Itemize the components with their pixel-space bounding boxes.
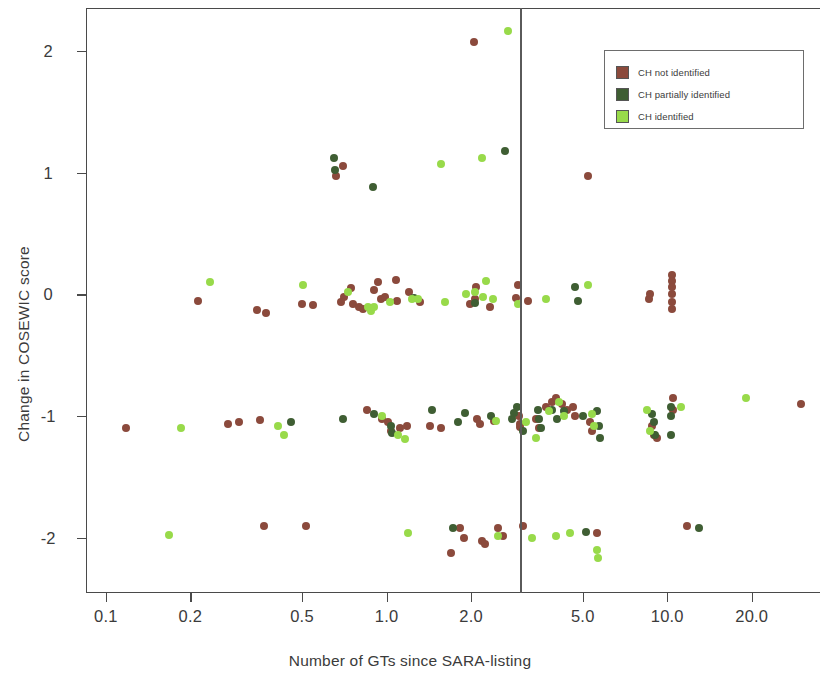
data-point bbox=[339, 415, 347, 423]
data-point bbox=[262, 309, 270, 317]
legend-label: CH not identified bbox=[638, 67, 710, 78]
data-point bbox=[593, 529, 601, 537]
y-tick-label: -1 bbox=[41, 407, 56, 426]
legend-color-swatch bbox=[616, 110, 629, 123]
data-point bbox=[370, 286, 378, 294]
data-point bbox=[555, 398, 563, 406]
data-point bbox=[501, 147, 509, 155]
x-tick-label: 20.0 bbox=[735, 607, 768, 626]
data-point bbox=[330, 154, 338, 162]
legend-item: CH identified bbox=[616, 108, 694, 125]
scatter-plot-figure: Number of GTs since SARA-listing Change … bbox=[0, 0, 820, 687]
data-point bbox=[428, 406, 436, 414]
data-point bbox=[471, 299, 479, 307]
legend: CH not identifiedCH partially identified… bbox=[604, 50, 804, 129]
data-point bbox=[584, 281, 592, 289]
x-tick-mark bbox=[106, 593, 107, 602]
legend-label: CH partially identified bbox=[638, 89, 730, 100]
data-point bbox=[331, 166, 339, 174]
data-point bbox=[532, 434, 540, 442]
data-point bbox=[386, 298, 394, 306]
data-point bbox=[667, 403, 675, 411]
data-point bbox=[461, 409, 469, 417]
y-tick-mark bbox=[77, 51, 86, 52]
threshold-vertical-line bbox=[520, 8, 521, 593]
data-point bbox=[677, 403, 685, 411]
data-point bbox=[374, 278, 382, 286]
data-point bbox=[298, 300, 306, 308]
data-point bbox=[494, 532, 502, 540]
y-tick-label: 0 bbox=[43, 285, 52, 304]
x-tick-label: 0.5 bbox=[290, 607, 314, 626]
data-point bbox=[481, 540, 489, 548]
x-tick-label: 10.0 bbox=[651, 607, 684, 626]
x-axis-title: Number of GTs since SARA-listing bbox=[0, 652, 820, 670]
data-point bbox=[643, 406, 651, 414]
data-point bbox=[596, 434, 604, 442]
data-point bbox=[456, 524, 464, 532]
data-point bbox=[566, 529, 574, 537]
y-tick-mark bbox=[77, 538, 86, 539]
data-point bbox=[528, 534, 536, 542]
data-point bbox=[462, 290, 470, 298]
data-point bbox=[302, 522, 310, 530]
data-point bbox=[287, 418, 295, 426]
data-point bbox=[486, 303, 494, 311]
data-point bbox=[194, 297, 202, 305]
data-point bbox=[370, 303, 378, 311]
x-tick-mark bbox=[752, 593, 753, 602]
data-point bbox=[582, 528, 590, 536]
data-point bbox=[393, 297, 401, 305]
data-point bbox=[667, 431, 675, 439]
data-point bbox=[403, 422, 411, 430]
data-point bbox=[274, 422, 282, 430]
x-tick-label: 0.1 bbox=[94, 607, 118, 626]
data-point bbox=[584, 172, 592, 180]
data-point bbox=[535, 415, 543, 423]
data-point bbox=[122, 424, 130, 432]
data-point bbox=[454, 418, 462, 426]
data-point bbox=[478, 154, 486, 162]
data-point bbox=[165, 531, 173, 539]
data-point bbox=[437, 424, 445, 432]
data-point bbox=[224, 420, 232, 428]
data-point bbox=[447, 549, 455, 557]
data-point bbox=[476, 420, 484, 428]
data-point bbox=[426, 422, 434, 430]
data-point bbox=[280, 431, 288, 439]
data-point bbox=[683, 522, 691, 530]
legend-item: CH not identified bbox=[616, 64, 710, 81]
data-point bbox=[524, 297, 532, 305]
data-point bbox=[552, 532, 560, 540]
data-point bbox=[260, 522, 268, 530]
data-point bbox=[177, 424, 185, 432]
data-point bbox=[339, 162, 347, 170]
data-point bbox=[414, 295, 422, 303]
data-point bbox=[489, 295, 497, 303]
y-tick-mark bbox=[77, 294, 86, 295]
data-point bbox=[650, 418, 658, 426]
x-tick-label: 0.2 bbox=[179, 607, 203, 626]
data-point bbox=[569, 403, 577, 411]
data-point bbox=[470, 38, 478, 46]
legend-label: CH identified bbox=[638, 111, 694, 122]
legend-color-swatch bbox=[616, 88, 629, 101]
data-point bbox=[571, 283, 579, 291]
data-point bbox=[579, 412, 587, 420]
x-tick-label: 5.0 bbox=[571, 607, 595, 626]
data-point bbox=[668, 305, 676, 313]
data-point bbox=[441, 298, 449, 306]
x-tick-mark bbox=[190, 593, 191, 602]
data-point bbox=[542, 295, 550, 303]
data-point bbox=[449, 524, 457, 532]
data-point bbox=[742, 394, 750, 402]
data-point bbox=[695, 524, 703, 532]
data-point bbox=[537, 424, 545, 432]
y-tick-label: 1 bbox=[43, 163, 52, 182]
data-point bbox=[545, 407, 553, 415]
y-tick-label: 2 bbox=[43, 41, 52, 60]
data-point bbox=[235, 418, 243, 426]
x-tick-mark bbox=[583, 593, 584, 602]
data-point bbox=[299, 281, 307, 289]
data-point bbox=[590, 422, 598, 430]
